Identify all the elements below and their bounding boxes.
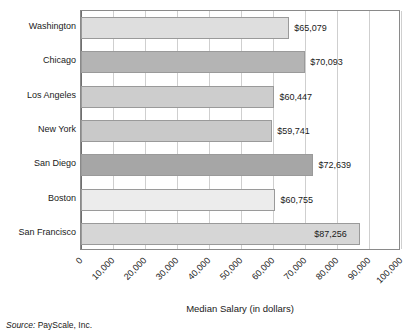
- bar-value-label: $60,447: [279, 92, 312, 101]
- category-label: New York: [0, 125, 76, 134]
- category-label: Washington: [0, 22, 76, 31]
- bar-row: $60,447: [81, 86, 399, 108]
- source-text: PayScale, Inc.: [38, 320, 92, 330]
- bar-value-label: $65,079: [294, 24, 327, 33]
- bar-value-label: $70,093: [310, 58, 343, 67]
- source-prefix: Source:: [6, 320, 35, 330]
- x-tick-label: 0: [74, 256, 84, 266]
- bar[interactable]: [81, 51, 305, 73]
- x-tick-label: 100,000: [375, 256, 404, 285]
- bar-row: $60,755: [81, 189, 399, 211]
- category-label: San Francisco: [0, 228, 76, 237]
- x-tick-label: 60,000: [251, 256, 277, 282]
- bar-value-label: $59,741: [277, 127, 310, 136]
- bar-value-label: $60,755: [280, 195, 313, 204]
- x-tick-label: 80,000: [315, 256, 341, 282]
- bar[interactable]: [81, 154, 313, 176]
- bar-row: $70,093: [81, 51, 399, 73]
- bar-value-label: $72,639: [318, 161, 351, 170]
- x-tick-label: 90,000: [347, 256, 373, 282]
- category-label: Boston: [0, 194, 76, 203]
- category-label: Los Angeles: [0, 91, 76, 100]
- bar-row: $65,079: [81, 17, 399, 39]
- x-tick-label: 10,000: [91, 256, 117, 282]
- bar-row: $59,741: [81, 120, 399, 142]
- bar-row: $87,256: [81, 223, 399, 245]
- x-tick-label: 40,000: [187, 256, 213, 282]
- category-label: San Diego: [0, 159, 76, 168]
- x-tick-label: 50,000: [219, 256, 245, 282]
- x-tick-label: 20,000: [123, 256, 149, 282]
- x-tick-label: 70,000: [283, 256, 309, 282]
- bar[interactable]: [81, 189, 275, 211]
- source-note: Source: PayScale, Inc.: [6, 320, 92, 330]
- bar[interactable]: [81, 17, 289, 39]
- bar[interactable]: [81, 86, 274, 108]
- plot-area: $65,079$70,093$60,447$59,741$72,639$60,7…: [80, 10, 400, 250]
- bar[interactable]: [81, 120, 272, 142]
- bar-chart: $65,079$70,093$60,447$59,741$72,639$60,7…: [0, 0, 413, 333]
- x-axis-title: Median Salary (in dollars): [80, 303, 400, 314]
- x-tick-label: 30,000: [155, 256, 181, 282]
- bar-row: $72,639: [81, 154, 399, 176]
- bars-layer: $65,079$70,093$60,447$59,741$72,639$60,7…: [81, 11, 399, 249]
- category-label: Chicago: [0, 56, 76, 65]
- bar-value-label: $87,256: [314, 229, 347, 238]
- gridline: [401, 11, 402, 249]
- category-axis-labels: WashingtonChicagoLos AngelesNew YorkSan …: [0, 10, 76, 250]
